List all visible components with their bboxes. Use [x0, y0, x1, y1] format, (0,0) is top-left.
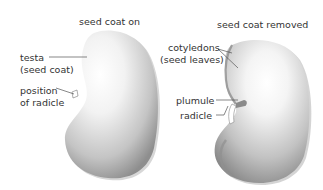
radicle-position-label-line1: position: [20, 85, 58, 96]
left-seed-body: [65, 31, 158, 179]
left-seed: [65, 31, 160, 181]
seed-structure-diagram: seed coat on seed coat removed testa (se…: [0, 0, 323, 190]
testa-label-line2: (seed coat): [20, 64, 74, 75]
radicle-leader: [216, 106, 228, 115]
radicle-position-leader: [56, 88, 74, 94]
right-seed-title: seed coat removed: [217, 19, 308, 30]
left-seed-title: seed coat on: [79, 16, 140, 27]
cotyledons-label-line2: (seed leaves): [160, 54, 224, 65]
plumule-label: plumule: [176, 95, 214, 106]
right-seed: [215, 40, 312, 185]
radicle-label: radicle: [180, 110, 212, 121]
testa-label-line1: testa: [20, 52, 44, 63]
cotyledons-label-line1: cotyledons: [168, 42, 220, 53]
radicle-position-label-line2: of radicle: [20, 97, 64, 108]
